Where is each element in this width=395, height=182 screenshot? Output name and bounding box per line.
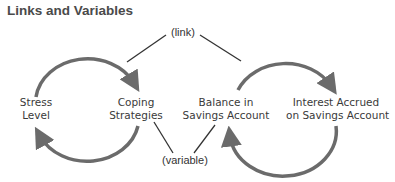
arrow-coping-to-stress — [40, 126, 138, 161]
node-balance-line1: Balance in — [181, 96, 271, 109]
link-label: (link) — [171, 26, 195, 38]
link-pointer-left — [127, 35, 166, 62]
node-coping-strategies: Coping Strategies — [106, 96, 166, 122]
node-stress-level-line2: Level — [14, 109, 58, 122]
variable-pointer-left — [154, 122, 173, 153]
node-coping-strategies-line1: Coping — [106, 96, 166, 109]
arrow-stress-to-coping — [36, 59, 134, 97]
node-interest-line1: Interest Accrued — [286, 96, 386, 109]
variable-label: (variable) — [162, 154, 208, 166]
link-pointer-right — [200, 35, 241, 61]
variable-pointer-right — [194, 125, 215, 153]
arrow-interest-to-balance — [230, 126, 336, 176]
node-coping-strategies-line2: Strategies — [106, 109, 166, 122]
node-stress-level: Stress Level — [14, 96, 58, 122]
node-interest: Interest Accrued on Savings Account — [286, 96, 386, 122]
node-balance: Balance in Savings Account — [181, 96, 271, 122]
node-stress-level-line1: Stress — [14, 96, 58, 109]
node-balance-line2: Savings Account — [181, 109, 271, 122]
node-interest-line2: on Savings Account — [286, 109, 386, 122]
arrow-balance-to-interest — [238, 64, 331, 90]
